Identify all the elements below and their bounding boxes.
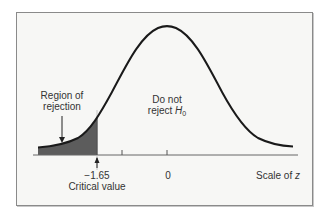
rejection-region-label: Region of rejection <box>32 90 92 112</box>
rejection-label-line2: rejection <box>32 101 92 112</box>
critical-value-caption: Critical value <box>62 181 132 192</box>
axis-label: Scale of z <box>248 170 308 181</box>
rejection-label-line1: Region of <box>32 90 92 101</box>
normal-curve <box>38 26 293 147</box>
do-not-reject-label: Do not reject H0 <box>136 94 198 119</box>
critical-arrow-head <box>95 157 100 163</box>
h0-subscript: 0 <box>182 110 186 117</box>
do-not-reject-line1: Do not <box>136 94 198 105</box>
z-variable: z <box>295 170 300 181</box>
critical-value-number: −1.65 <box>77 170 117 181</box>
rejection-arrow-head <box>59 137 65 143</box>
do-not-reject-line2: reject H0 <box>136 105 198 119</box>
rejection-region-shading <box>38 118 97 155</box>
zero-tick-label: 0 <box>158 170 178 181</box>
